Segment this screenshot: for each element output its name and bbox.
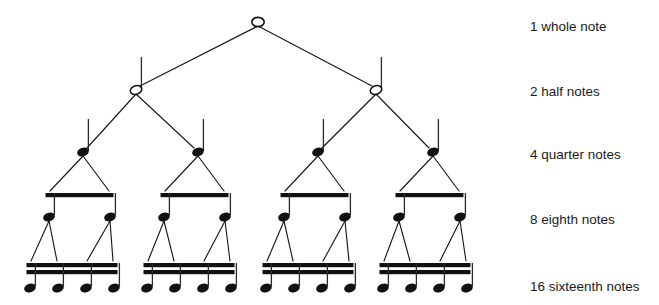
tree-edge-half-to-quarter bbox=[322, 94, 376, 148]
note-sixteenth-10 bbox=[287, 263, 301, 294]
beam-sixteenth bbox=[263, 270, 354, 274]
note-sixteenth-1 bbox=[23, 263, 37, 294]
note-half-2 bbox=[369, 57, 383, 96]
tree-edge-eighth-to-sixteenth bbox=[345, 221, 349, 261]
tree-edge-eighth-to-sixteenth bbox=[87, 221, 110, 261]
note-sixteenth-2 bbox=[51, 263, 65, 294]
tree-edge-eighth-to-sixteenth bbox=[110, 221, 113, 261]
tree-edge-eighth-to-sixteenth bbox=[323, 221, 345, 261]
note-eighth-5 bbox=[277, 193, 291, 223]
tree-edge-half-to-quarter bbox=[136, 94, 194, 148]
note-sixteenth-9 bbox=[259, 263, 273, 294]
tree-edge-whole-to-half bbox=[258, 26, 372, 86]
note-sixteenth-11 bbox=[315, 263, 329, 294]
tree-edge-half-to-quarter bbox=[376, 94, 429, 148]
note-eighth-6 bbox=[338, 193, 352, 223]
note-sixteenth-16 bbox=[460, 263, 474, 294]
note-eighth-4 bbox=[218, 193, 232, 223]
beam-sixteenth bbox=[144, 270, 235, 274]
tree-edge-eighth-to-sixteenth bbox=[225, 221, 230, 261]
tree-edge-eighth-to-sixteenth bbox=[284, 221, 293, 261]
note-row-whole bbox=[252, 17, 264, 26]
note-row-half bbox=[129, 57, 383, 96]
beam-eighth bbox=[161, 193, 229, 197]
note-row-sixteenth bbox=[23, 263, 474, 294]
beam-sixteenth bbox=[144, 263, 235, 267]
tree-edge-eighth-to-sixteenth bbox=[267, 221, 284, 261]
note-quarter-3 bbox=[311, 119, 325, 158]
note-eighth-8 bbox=[453, 193, 467, 223]
note-row-eighth bbox=[42, 193, 467, 223]
note-sixteenth-12 bbox=[343, 263, 357, 294]
note-quarter-2 bbox=[191, 119, 205, 158]
tree-edge-eighth-to-sixteenth bbox=[164, 221, 174, 261]
tree-edge-eighth-to-sixteenth bbox=[49, 221, 57, 261]
note-sixteenth-13 bbox=[376, 263, 390, 294]
tree-edge-quarter-to-eighth bbox=[285, 156, 318, 191]
beam-eighth bbox=[281, 193, 349, 197]
row-label-half: 2 half notes bbox=[530, 84, 600, 99]
note-eighth-3 bbox=[157, 193, 171, 223]
beam-eighth bbox=[396, 193, 464, 197]
beam-sixteenth bbox=[263, 263, 354, 267]
beam-sixteenth bbox=[27, 263, 118, 267]
note-sixteenth-3 bbox=[79, 263, 93, 294]
note-quarter-4 bbox=[426, 119, 440, 158]
note-quarter-1 bbox=[76, 119, 90, 158]
note-sixteenth-4 bbox=[107, 263, 121, 294]
note-eighth-1 bbox=[42, 193, 56, 223]
note-row-quarter bbox=[76, 119, 440, 158]
note-eighth-2 bbox=[103, 193, 117, 223]
note-whole-1 bbox=[252, 17, 264, 26]
note-sixteenth-6 bbox=[168, 263, 182, 294]
row-label-sixteenth: 16 sixteenth notes bbox=[530, 279, 640, 294]
note-value-tree-diagram: 1 whole note2 half notes4 quarter notes8… bbox=[0, 0, 659, 305]
tree-edge-quarter-to-eighth bbox=[400, 156, 433, 191]
notehead-whole bbox=[252, 17, 264, 26]
tree-edge-quarter-to-eighth bbox=[165, 156, 198, 191]
tree-edge-eighth-to-sixteenth bbox=[440, 221, 460, 261]
beam-sixteenth bbox=[380, 263, 471, 267]
tree-edge-eighth-to-sixteenth bbox=[31, 221, 49, 261]
note-sixteenth-7 bbox=[196, 263, 210, 294]
note-eighth-7 bbox=[392, 193, 406, 223]
tree-edges-group bbox=[31, 26, 466, 261]
tree-edge-quarter-to-eighth bbox=[50, 156, 83, 191]
tree-edge-quarter-to-eighth bbox=[198, 156, 224, 191]
row-labels-group: 1 whole note2 half notes4 quarter notes8… bbox=[530, 19, 640, 294]
tree-edge-eighth-to-sixteenth bbox=[399, 221, 410, 261]
row-label-quarter: 4 quarter notes bbox=[530, 147, 621, 162]
tree-edge-quarter-to-eighth bbox=[433, 156, 459, 191]
tree-edge-quarter-to-eighth bbox=[83, 156, 109, 191]
note-sixteenth-15 bbox=[432, 263, 446, 294]
tree-notes-group bbox=[23, 17, 474, 294]
beam-sixteenth bbox=[380, 270, 471, 274]
tree-edge-quarter-to-eighth bbox=[318, 156, 344, 191]
note-tree-svg: 1 whole note2 half notes4 quarter notes8… bbox=[0, 0, 659, 305]
row-label-whole: 1 whole note bbox=[530, 19, 607, 34]
beam-eighth bbox=[46, 193, 114, 197]
tree-edge-eighth-to-sixteenth bbox=[148, 221, 164, 261]
beam-sixteenth bbox=[27, 270, 118, 274]
tree-edge-eighth-to-sixteenth bbox=[384, 221, 399, 261]
row-label-eighth: 8 eighth notes bbox=[530, 212, 615, 227]
note-sixteenth-8 bbox=[224, 263, 238, 294]
tree-edge-whole-to-half bbox=[140, 26, 258, 86]
tree-edge-half-to-quarter bbox=[87, 94, 136, 148]
note-half-1 bbox=[129, 57, 143, 96]
note-sixteenth-5 bbox=[140, 263, 154, 294]
note-sixteenth-14 bbox=[404, 263, 418, 294]
tree-edge-eighth-to-sixteenth bbox=[460, 221, 466, 261]
tree-edge-eighth-to-sixteenth bbox=[204, 221, 225, 261]
